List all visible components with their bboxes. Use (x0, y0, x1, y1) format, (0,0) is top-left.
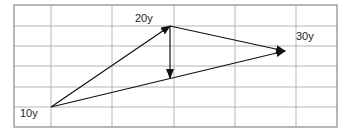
vector-diagram: 10y 20y 30y (0, 0, 348, 134)
grid (14, 5, 337, 127)
arrow-p10-p30 (51, 51, 285, 107)
label-10y: 10y (20, 107, 38, 119)
label-30y: 30y (296, 30, 314, 42)
arrow-p20-p30 (170, 26, 285, 51)
label-20y: 20y (135, 12, 153, 24)
